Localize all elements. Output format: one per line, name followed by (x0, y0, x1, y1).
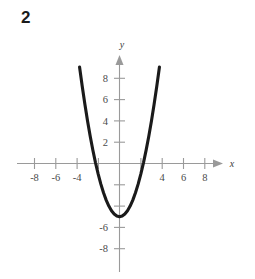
x-axis-label: x (229, 158, 235, 169)
parabola-graph: -8 -6 -4 4 6 8 8 6 4 2 -6 -8 x y (0, 0, 255, 279)
x-axis-arrow-icon (213, 160, 223, 168)
x-tick-label--4: -4 (73, 172, 82, 183)
y-tick-label-8: 8 (103, 73, 108, 84)
x-tick-label-6: 6 (181, 172, 186, 183)
y-tick-label-6: 6 (103, 94, 108, 105)
x-tick-label-4: 4 (160, 172, 166, 183)
x-tick-label--8: -8 (30, 172, 39, 183)
y-tick-label--6: -6 (99, 222, 108, 233)
x-tick-labels: -8 -6 -4 4 6 8 (30, 172, 207, 183)
y-tick-label--8: -8 (99, 243, 108, 254)
x-tick-label-8: 8 (202, 172, 207, 183)
y-tick-label-4: 4 (103, 116, 109, 127)
y-tick-label-2: 2 (103, 137, 108, 148)
y-axis-arrow-icon (116, 55, 124, 65)
x-tick-label--6: -6 (51, 172, 60, 183)
y-axis-label: y (119, 39, 125, 50)
figure-container: 2 -8 - (0, 0, 255, 279)
axes-group (17, 55, 223, 272)
